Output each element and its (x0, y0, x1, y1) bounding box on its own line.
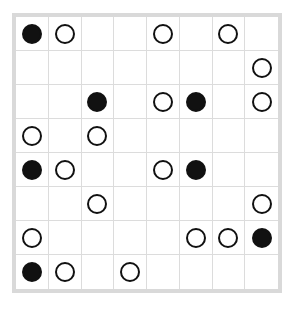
puzzle-board (12, 13, 282, 293)
black-pearl-icon (186, 160, 206, 180)
black-pearl-icon (22, 24, 42, 44)
grid-cell[interactable] (213, 221, 246, 255)
grid-cell[interactable] (147, 17, 180, 51)
grid-cell[interactable] (147, 187, 180, 221)
grid-cell[interactable] (114, 119, 147, 153)
grid-cell[interactable] (49, 153, 82, 187)
grid-cell[interactable] (180, 51, 213, 85)
grid-cell[interactable] (82, 85, 115, 119)
white-pearl-icon (218, 228, 238, 248)
grid-cell[interactable] (49, 221, 82, 255)
grid-cell[interactable] (213, 51, 246, 85)
grid-cell[interactable] (82, 153, 115, 187)
white-pearl-icon (252, 194, 272, 214)
white-pearl-icon (87, 194, 107, 214)
grid-cell[interactable] (16, 221, 49, 255)
grid-cell[interactable] (147, 85, 180, 119)
black-pearl-icon (87, 92, 107, 112)
white-pearl-icon (153, 92, 173, 112)
grid-cell[interactable] (82, 187, 115, 221)
white-pearl-icon (22, 126, 42, 146)
grid-cell[interactable] (16, 119, 49, 153)
grid-cell[interactable] (114, 85, 147, 119)
grid-cell[interactable] (147, 153, 180, 187)
grid-cell[interactable] (49, 17, 82, 51)
grid-cell[interactable] (245, 221, 278, 255)
grid-cell[interactable] (180, 153, 213, 187)
grid-cell[interactable] (213, 153, 246, 187)
grid-cell[interactable] (49, 85, 82, 119)
grid-cell[interactable] (49, 119, 82, 153)
grid-cell[interactable] (180, 85, 213, 119)
grid-cell[interactable] (180, 17, 213, 51)
grid-cell[interactable] (245, 255, 278, 289)
white-pearl-icon (252, 58, 272, 78)
grid-cell[interactable] (16, 85, 49, 119)
grid-cell[interactable] (16, 17, 49, 51)
grid-cell[interactable] (147, 255, 180, 289)
grid-cell[interactable] (213, 187, 246, 221)
grid-cell[interactable] (16, 255, 49, 289)
white-pearl-icon (186, 228, 206, 248)
white-pearl-icon (55, 262, 75, 282)
grid-cell[interactable] (82, 51, 115, 85)
grid-cell[interactable] (114, 17, 147, 51)
grid-cell[interactable] (213, 85, 246, 119)
black-pearl-icon (252, 228, 272, 248)
grid-cell[interactable] (245, 153, 278, 187)
white-pearl-icon (22, 228, 42, 248)
grid-cell[interactable] (114, 187, 147, 221)
grid-cell[interactable] (82, 221, 115, 255)
black-pearl-icon (186, 92, 206, 112)
white-pearl-icon (87, 126, 107, 146)
grid-cell[interactable] (213, 255, 246, 289)
grid-cell[interactable] (49, 255, 82, 289)
grid-cell[interactable] (114, 153, 147, 187)
grid-cell[interactable] (49, 187, 82, 221)
grid-cell[interactable] (180, 187, 213, 221)
grid-cell[interactable] (245, 85, 278, 119)
white-pearl-icon (252, 92, 272, 112)
grid-cell[interactable] (16, 153, 49, 187)
grid-cell[interactable] (82, 119, 115, 153)
grid-cell[interactable] (82, 17, 115, 51)
white-pearl-icon (153, 24, 173, 44)
grid-cell[interactable] (49, 51, 82, 85)
white-pearl-icon (55, 160, 75, 180)
grid-cell[interactable] (147, 119, 180, 153)
grid-cell[interactable] (213, 17, 246, 51)
white-pearl-icon (153, 160, 173, 180)
grid-cell[interactable] (245, 17, 278, 51)
grid-cell[interactable] (147, 221, 180, 255)
grid-cell[interactable] (82, 255, 115, 289)
grid-cell[interactable] (245, 51, 278, 85)
grid-cell[interactable] (147, 51, 180, 85)
white-pearl-icon (218, 24, 238, 44)
grid-cell[interactable] (114, 51, 147, 85)
black-pearl-icon (22, 262, 42, 282)
white-pearl-icon (55, 24, 75, 44)
grid-cell[interactable] (245, 119, 278, 153)
black-pearl-icon (22, 160, 42, 180)
grid-cell[interactable] (114, 221, 147, 255)
grid-cell[interactable] (16, 51, 49, 85)
grid-cell[interactable] (180, 221, 213, 255)
white-pearl-icon (120, 262, 140, 282)
grid-cell[interactable] (180, 255, 213, 289)
grid-cell[interactable] (180, 119, 213, 153)
grid-cell[interactable] (114, 255, 147, 289)
grid-cell[interactable] (16, 187, 49, 221)
grid-cell[interactable] (213, 119, 246, 153)
grid-cell[interactable] (245, 187, 278, 221)
